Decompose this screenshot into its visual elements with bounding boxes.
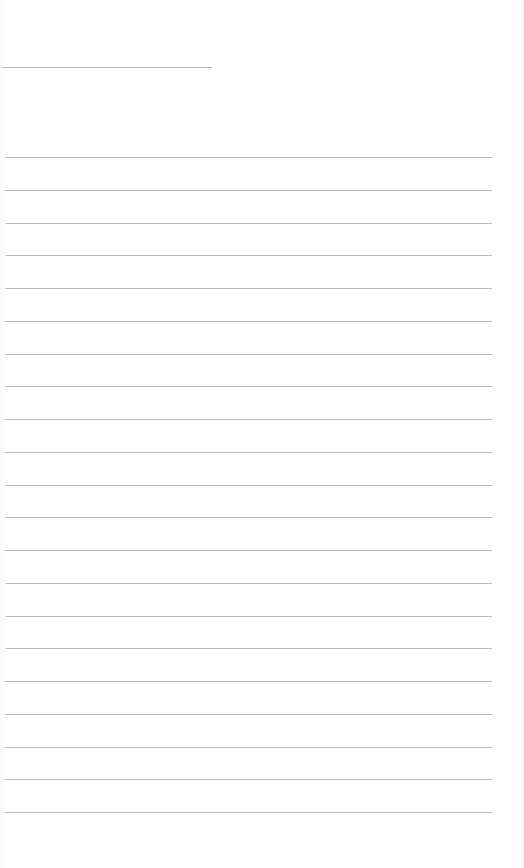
title-line (2, 67, 212, 68)
ruled-line (5, 288, 492, 289)
ruled-line (5, 223, 492, 224)
ruled-line (5, 747, 492, 748)
ruled-line (5, 779, 492, 780)
ruled-line (5, 321, 492, 322)
notepad-page (0, 0, 524, 868)
ruled-line (5, 616, 492, 617)
page-right-edge (518, 0, 524, 868)
ruled-line (5, 550, 492, 551)
ruled-line (5, 190, 492, 191)
ruled-line (5, 157, 492, 158)
ruled-line (5, 386, 492, 387)
ruled-line (5, 583, 492, 584)
ruled-line (5, 714, 492, 715)
ruled-line (5, 354, 492, 355)
ruled-line (5, 419, 492, 420)
ruled-line (5, 681, 492, 682)
ruled-line (5, 255, 492, 256)
page-left-edge (0, 0, 6, 868)
ruled-line (5, 517, 492, 518)
ruled-line (5, 452, 492, 453)
ruled-line (5, 485, 492, 486)
ruled-line (5, 648, 492, 649)
ruled-line (5, 812, 492, 813)
